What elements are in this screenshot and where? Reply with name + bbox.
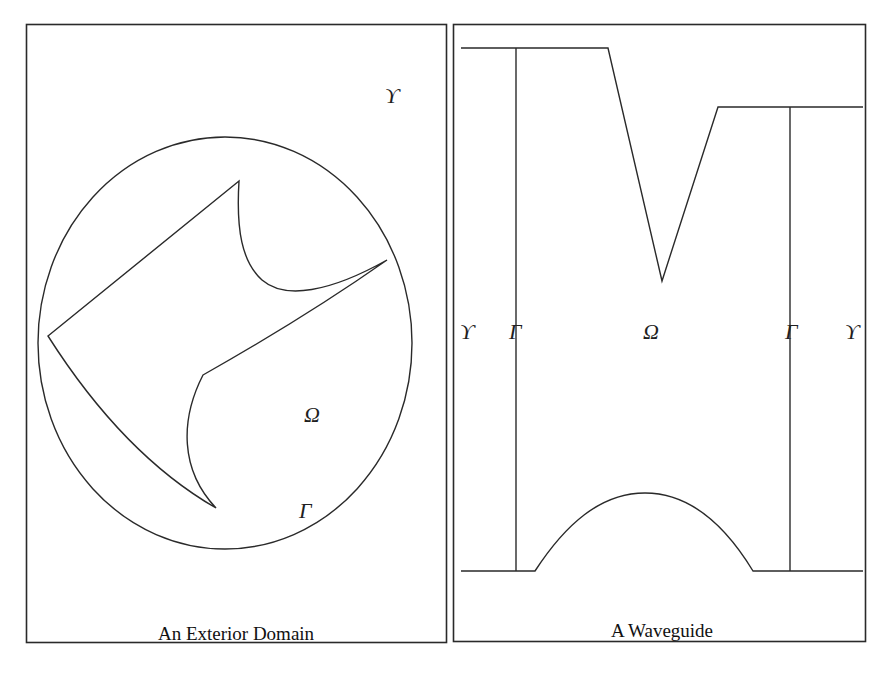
- caption-waveguide: A Waveguide: [611, 620, 713, 641]
- artificial-boundary-circle: [38, 137, 412, 549]
- gamma-label: Γ: [298, 498, 313, 523]
- upsilon-right-label: ϒ: [845, 319, 861, 344]
- panel-exterior-domain: ϒ Ω Γ An Exterior Domain: [27, 25, 447, 645]
- gamma-left-label: Γ: [508, 319, 523, 344]
- omega-label-waveguide: Ω: [643, 319, 659, 344]
- waveguide-bottom-wall: [461, 493, 863, 571]
- panel-waveguide: ϒ Γ Ω Γ ϒ A Waveguide: [454, 25, 866, 642]
- upsilon-label: ϒ: [385, 83, 401, 108]
- caption-exterior-domain: An Exterior Domain: [158, 623, 315, 644]
- omega-label: Ω: [304, 402, 320, 427]
- panel-frame-left: [27, 25, 447, 643]
- upsilon-left-label: ϒ: [460, 319, 476, 344]
- gamma-right-label: Γ: [784, 319, 799, 344]
- obstacle-boundary: [48, 181, 387, 508]
- waveguide-top-wall: [461, 48, 863, 281]
